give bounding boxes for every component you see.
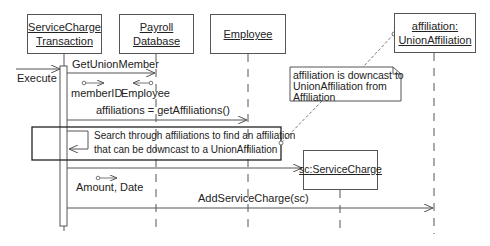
object-servicecharge-transaction: ServiceCharge Transaction xyxy=(27,14,102,54)
activation-bar xyxy=(60,66,67,226)
object-label: Employee xyxy=(224,27,273,41)
object-payroll-database: Payroll Database xyxy=(119,14,194,54)
get-union-member-label: GetUnionMember xyxy=(72,58,159,71)
object-label: sc:ServiceCharge xyxy=(299,162,382,176)
object-label: Database xyxy=(133,34,180,48)
employee-return-label: Employee xyxy=(121,87,170,100)
object-union-affiliation: affiliation: UnionAffiliation xyxy=(394,13,476,53)
search-frame-text-2: that can be downcast to a UnionAffiliati… xyxy=(94,143,277,157)
amount-date-label: Amount, Date xyxy=(76,181,143,194)
search-frame-text-1: Search through affiliations to find an a… xyxy=(94,129,295,143)
object-label: Payroll xyxy=(140,20,174,34)
object-label: ServiceCharge xyxy=(28,20,101,34)
object-service-charge: sc:ServiceCharge xyxy=(303,150,378,190)
member-id-label: memberID xyxy=(71,87,122,100)
get-affiliations-label: affiliations = getAffiliations() xyxy=(96,104,230,117)
object-label: Transaction xyxy=(36,34,93,48)
sequence-diagram: ServiceCharge Transaction Payroll Databa… xyxy=(0,0,490,246)
note-text-3: Affiliation xyxy=(293,90,335,104)
object-label: UnionAffiliation xyxy=(398,33,471,47)
self-call-loop xyxy=(67,131,88,149)
add-service-charge-label: AddServiceCharge(sc) xyxy=(198,192,309,205)
object-employee: Employee xyxy=(210,14,286,54)
execute-label: Execute xyxy=(17,72,57,85)
note-connector-top xyxy=(363,34,394,67)
object-label: affiliation: xyxy=(412,19,458,33)
